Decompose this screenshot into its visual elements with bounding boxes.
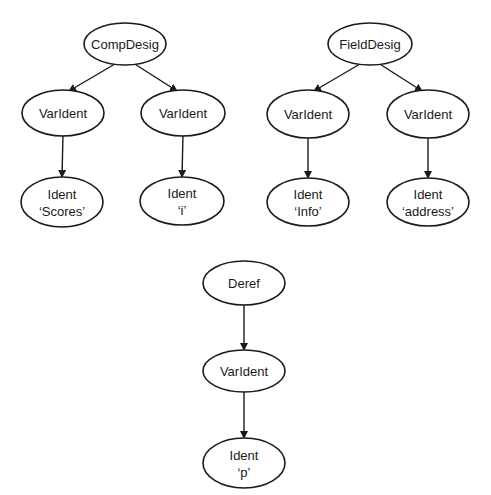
node-sublabel: ‘i’ xyxy=(178,203,187,218)
node-label: VarIdent xyxy=(404,107,453,122)
node-sublabel: ‘address’ xyxy=(402,204,454,219)
comp-desig-tree: CompDesigVarIdentVarIdentIdent‘Scores’Id… xyxy=(21,23,225,227)
arrow-n1-to-n3 xyxy=(130,61,177,91)
arrow-m1-to-m3 xyxy=(375,61,422,91)
node-fielddesig: FieldDesig xyxy=(328,23,412,65)
node-label: Ident xyxy=(294,187,323,202)
field-desig-tree: FieldDesigVarIdentVarIdentIdent‘Info’Ide… xyxy=(267,23,469,226)
syntax-tree-diagram: CompDesigVarIdentVarIdentIdent‘Scores’Id… xyxy=(0,0,491,495)
node-label: Ident xyxy=(48,187,77,202)
node-ident: Ident‘p’ xyxy=(203,438,285,488)
node-ident: Ident‘Scores’ xyxy=(21,177,103,227)
arrow-n2-to-n4 xyxy=(62,134,63,177)
arrow-n3-to-n5 xyxy=(182,134,183,177)
node-ident: Ident‘address’ xyxy=(387,178,469,226)
node-compdesig: CompDesig xyxy=(84,23,166,65)
node-label: VarIdent xyxy=(284,107,333,122)
node-label: CompDesig xyxy=(91,37,159,52)
node-varident: VarIdent xyxy=(203,350,285,392)
node-sublabel: ‘Info’ xyxy=(294,204,322,219)
node-sublabel: ‘p’ xyxy=(237,465,250,480)
node-ident: Ident‘i’ xyxy=(140,177,224,225)
node-varident: VarIdent xyxy=(22,90,104,136)
node-ident: Ident‘Info’ xyxy=(267,178,349,226)
deref-tree: DerefVarIdentIdent‘p’ xyxy=(203,261,285,488)
node-ellipse xyxy=(21,177,103,227)
node-ellipse xyxy=(203,438,285,488)
node-deref: Deref xyxy=(203,261,285,305)
nodes-layer: CompDesigVarIdentVarIdentIdent‘Scores’Id… xyxy=(21,23,469,488)
arrow-n1-to-n2 xyxy=(69,61,120,91)
arrow-m1-to-m2 xyxy=(314,61,365,91)
node-varident: VarIdent xyxy=(267,90,349,138)
node-label: Ident xyxy=(230,448,259,463)
node-label: VarIdent xyxy=(220,364,269,379)
node-label: FieldDesig xyxy=(339,37,400,52)
node-label: VarIdent xyxy=(159,106,208,121)
node-varident: VarIdent xyxy=(387,90,469,138)
node-label: Deref xyxy=(228,276,260,291)
node-label: Ident xyxy=(414,187,443,202)
node-label: VarIdent xyxy=(39,106,88,121)
node-varident: VarIdent xyxy=(141,90,225,136)
node-label: Ident xyxy=(168,186,197,201)
node-sublabel: ‘Scores’ xyxy=(39,204,85,219)
